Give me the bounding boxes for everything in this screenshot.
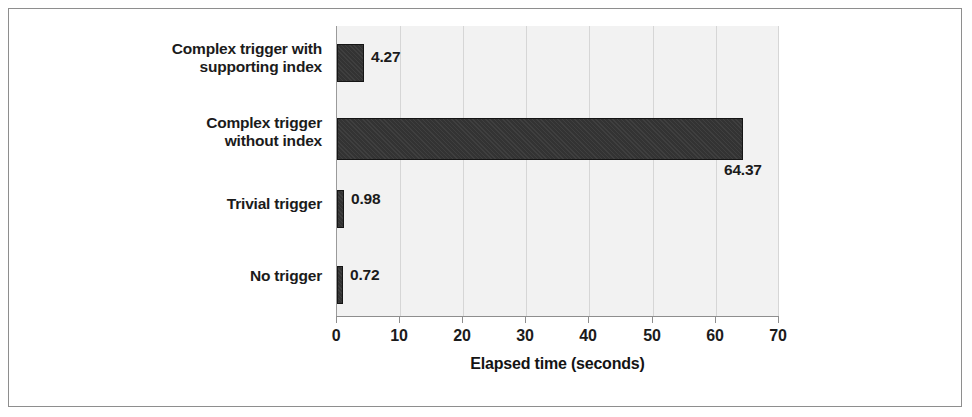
value-label-2: 0.98: [351, 190, 380, 208]
x-tick-30: [525, 317, 526, 323]
chart-figure: Complex trigger with supporting index Co…: [0, 0, 972, 417]
x-tick-label-30: 30: [505, 327, 545, 345]
x-tick-label-50: 50: [632, 327, 672, 345]
x-tick-70: [778, 317, 779, 323]
gridline-10: [400, 26, 401, 316]
bar-complex-trigger-without-index: [337, 118, 743, 160]
category-label-2-line1: Trivial trigger: [22, 195, 322, 213]
bar-no-trigger: [337, 266, 343, 304]
category-label-0-line2: supporting index: [22, 58, 322, 76]
category-label-1: Complex trigger without index: [22, 114, 322, 151]
x-tick-label-70: 70: [758, 327, 798, 345]
value-label-0: 4.27: [371, 48, 400, 66]
x-tick-60: [715, 317, 716, 323]
category-label-0-line1: Complex trigger with: [22, 40, 322, 58]
x-tick-50: [652, 317, 653, 323]
x-tick-label-20: 20: [442, 327, 482, 345]
gridline-50: [653, 26, 654, 316]
category-label-1-line2: without index: [22, 132, 322, 150]
x-tick-label-0: 0: [316, 327, 356, 345]
gridline-60: [716, 26, 717, 316]
category-label-3: No trigger: [22, 267, 322, 285]
x-tick-label-60: 60: [695, 327, 735, 345]
gridline-20: [463, 26, 464, 316]
x-tick-0: [336, 317, 337, 323]
bar-trivial-trigger: [337, 190, 344, 228]
value-label-1: 64.37: [724, 161, 762, 179]
x-tick-20: [462, 317, 463, 323]
gridline-40: [589, 26, 590, 316]
category-axis-labels: Complex trigger with supporting index Co…: [20, 26, 330, 316]
x-axis-title: Elapsed time (seconds): [336, 355, 779, 373]
category-label-1-line1: Complex trigger: [22, 114, 322, 132]
category-label-3-line1: No trigger: [22, 267, 322, 285]
plot-area: [336, 26, 778, 316]
x-tick-40: [588, 317, 589, 323]
x-axis-line: [336, 316, 779, 317]
category-label-2: Trivial trigger: [22, 195, 322, 213]
x-tick-10: [399, 317, 400, 323]
x-tick-label-40: 40: [568, 327, 608, 345]
bar-complex-trigger-with-supporting-index: [337, 44, 364, 82]
value-label-3: 0.72: [350, 266, 379, 284]
gridline-30: [526, 26, 527, 316]
gridline-70: [778, 26, 779, 316]
x-tick-label-10: 10: [379, 327, 419, 345]
category-label-0: Complex trigger with supporting index: [22, 40, 322, 77]
